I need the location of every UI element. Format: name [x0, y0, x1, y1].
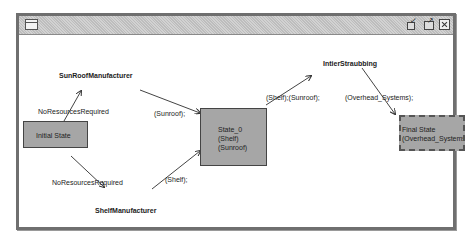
- edge-label-no-resources-bottom: NoResourcesRequired: [52, 179, 123, 186]
- actor-shelf-manufacturer: ShelfManufacturer: [95, 207, 156, 214]
- edge-integrator-to-final: [362, 68, 395, 114]
- initial-state-label: Initial State: [36, 131, 71, 140]
- edge-label-shelf-sunroof: (Shelf);(Sunroof);: [266, 94, 320, 101]
- final-state-resource: (Overhead_Systems): [402, 134, 465, 143]
- edge-label-overhead-systems: (Overhead_Systems);: [345, 94, 413, 101]
- edge-label-sunroof: (Sunroof);: [154, 110, 185, 117]
- state0-resource-shelf: (Shelf): [218, 134, 247, 143]
- close-icon[interactable]: [439, 19, 450, 30]
- maximize-icon[interactable]: ↗: [423, 19, 434, 30]
- window-menu-icon[interactable]: [25, 19, 38, 30]
- diagram-window: ↙ ↗ Initial State: [16, 13, 456, 230]
- state0-node[interactable]: State_0 (Shelf) (Sunroof): [200, 108, 267, 166]
- final-state-node[interactable]: Final State (Overhead_Systems): [399, 115, 465, 151]
- actor-intier-straubbing: IntierStraubbing: [323, 60, 377, 67]
- state0-title: State_0: [218, 125, 247, 134]
- title-bar[interactable]: ↙ ↗: [19, 16, 453, 35]
- edge-label-shelf: (Shelf);: [165, 176, 188, 183]
- edge-label-no-resources-top: NoResourcesRequired: [38, 108, 109, 115]
- diagram-canvas: Initial State State_0 (Shelf) (Sunroof) …: [19, 35, 453, 227]
- state0-resource-sunroof: (Sunroof): [218, 143, 247, 152]
- edge-shelf-to-state0: [152, 151, 200, 189]
- edge-initial-to-sunroof-mfr: [64, 91, 81, 121]
- actor-sunroof-manufacturer: SunRoofManufacturer: [59, 72, 133, 79]
- initial-state-node[interactable]: Initial State: [23, 121, 88, 148]
- minimize-icon[interactable]: ↙: [406, 19, 417, 30]
- final-state-title: Final State: [402, 125, 465, 134]
